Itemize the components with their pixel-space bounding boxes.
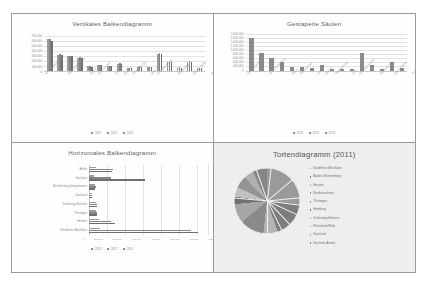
legend-item[interactable]: 2013 <box>325 131 335 135</box>
legend-label: Hamburg <box>313 208 326 211</box>
legend-label: 2011 <box>297 131 303 135</box>
y-tick-label: Schleswig-Holstein <box>14 203 87 206</box>
x-tick-label: 100.000 <box>89 238 107 241</box>
legend-item[interactable]: 2012 <box>107 131 117 135</box>
bar[interactable] <box>89 179 145 181</box>
y-tick-label: Saarland <box>14 194 87 197</box>
y-tick-label: Thüringen <box>14 212 87 215</box>
plot-area-vertical-bar: 700.000 600.000 500.000 400.000 300.000 … <box>12 14 213 142</box>
legend-item[interactable]: 2013 <box>123 131 133 135</box>
y-axis-labels-stacked-column: 1.800.000 1.600.000 1.400.000 1.200.000 … <box>218 33 244 73</box>
chart-panel-horizontal-bar[interactable]: Horizontales Balkendiagramm BerlinSachse… <box>12 143 214 272</box>
legend-label: Sachsen-Anhalt <box>313 242 335 245</box>
legend-swatch <box>107 132 109 134</box>
bar-row: Mecklenburg-Vorpommern <box>14 182 214 191</box>
legend-label: Niedersachsen <box>313 192 334 195</box>
x-tick-label: 300.000 <box>128 238 146 241</box>
legend-horizontal-bar[interactable]: 2013 2012 2011 <box>12 247 213 251</box>
pie-slice-separator <box>256 170 268 201</box>
legend-swatch <box>123 248 125 250</box>
legend-item[interactable]: 2013 <box>91 247 101 251</box>
legend-label: Thüringen <box>313 200 327 203</box>
legend-item[interactable]: Niedersachsen <box>310 192 342 195</box>
pie-chart[interactable] <box>234 168 300 234</box>
legend-label: 2012 <box>110 131 117 135</box>
x-axis-labels-stacked-column: Nordrhein-WestfalenBaden-WürttembergBaye… <box>247 74 408 108</box>
legend-label: Nordrhein-Westfalen <box>313 167 341 170</box>
y-tick-label: Sachsen <box>14 177 87 180</box>
legend-swatch <box>310 242 312 244</box>
plot-area-stacked-column: 1.800.000 1.600.000 1.400.000 1.200.000 … <box>214 14 416 142</box>
legend-item[interactable]: 2012 <box>107 247 117 251</box>
legend-item[interactable]: Baden-Württemberg <box>310 175 342 178</box>
legend-label: 2011 <box>127 247 133 251</box>
legend-swatch <box>325 132 327 134</box>
legend-swatch <box>293 132 295 134</box>
legend-pie[interactable]: Nordrhein-WestfalenBaden-WürttembergHess… <box>310 167 342 250</box>
y-tick-label: Nordrhein-Westfalen <box>14 229 87 232</box>
bar-stack <box>89 228 198 234</box>
legend-item[interactable]: Sachsen-Anhalt <box>310 242 342 245</box>
legend-swatch <box>310 168 312 170</box>
legend-label: Hessen <box>313 184 324 187</box>
bar-stack <box>89 184 96 190</box>
legend-swatch <box>310 217 312 219</box>
legend-item[interactable]: Thüringen <box>310 200 342 203</box>
bar[interactable] <box>89 206 97 208</box>
bar-group <box>327 34 337 71</box>
x-tick-label: 700.000 <box>204 238 213 241</box>
legend-item[interactable]: Schleswig-Holstein <box>310 217 342 220</box>
legend-swatch <box>309 132 311 134</box>
pie-slice-separator <box>234 197 267 201</box>
bar-row: Sachsen <box>14 174 214 183</box>
legend-swatch <box>310 192 312 194</box>
chart-panel-vertical-bar[interactable]: Vertikales Balkendiagramm 700.000 600.00… <box>12 14 214 143</box>
x-tick-label: 400.000 <box>147 238 165 241</box>
legend-swatch <box>91 248 93 250</box>
y-tick: 0 <box>18 71 42 76</box>
bar[interactable] <box>89 197 92 199</box>
legend-item[interactable]: Hessen <box>310 184 342 187</box>
chart-title-pie: Tortendiagramm (2011) <box>214 143 416 159</box>
y-tick-label: Mecklenburg-Vorpommern <box>14 185 87 188</box>
bar[interactable] <box>89 188 95 190</box>
legend-item[interactable]: 2011 <box>91 131 101 135</box>
legend-item[interactable]: Nordrhein-Westfalen <box>310 167 342 170</box>
legend-item[interactable]: Rheinland-Pfalz <box>310 225 342 228</box>
bar-row: Berlin <box>14 165 214 174</box>
legend-label: 2012 <box>312 131 319 135</box>
bar-stack <box>89 175 145 181</box>
bar-row: Saarland <box>14 191 214 200</box>
chart-panel-pie[interactable]: Tortendiagramm (2011) Nordrhein-Westfale… <box>214 143 416 272</box>
chart-grid: Vertikales Balkendiagramm 700.000 600.00… <box>11 13 416 273</box>
bar-stack <box>89 167 113 173</box>
bar[interactable] <box>89 223 115 225</box>
legend-label: 2012 <box>111 247 118 251</box>
bar[interactable] <box>89 232 198 234</box>
chart-panel-stacked-column[interactable]: Gestapelte Säulen 1.800.000 1.600.000 1.… <box>214 14 416 143</box>
bar-stack <box>89 210 97 216</box>
x-axis-labels-horizontal-bar: 0100.000200.000300.000400.000500.000600.… <box>82 238 214 241</box>
legend-item[interactable]: 2011 <box>293 131 303 135</box>
legend-label: Rheinland-Pfalz <box>313 225 335 228</box>
legend-swatch <box>310 176 312 178</box>
legend-label: 2013 <box>126 131 133 135</box>
legend-stacked-column[interactable]: 2011 2012 2013 <box>214 131 416 135</box>
legend-item[interactable]: 2011 <box>123 247 133 251</box>
bar-row: Schleswig-Holstein <box>14 200 214 209</box>
legend-swatch <box>310 226 312 228</box>
legend-item[interactable]: 2012 <box>309 131 319 135</box>
legend-swatch <box>310 209 312 211</box>
bar[interactable] <box>89 171 112 173</box>
legend-vertical-bar[interactable]: 2011 2012 2013 <box>12 131 213 135</box>
legend-item[interactable]: Saarland <box>310 233 342 236</box>
x-tick-label: 200.000 <box>108 238 126 241</box>
x-tick-label: 500.000 <box>166 238 184 241</box>
bar-group <box>317 34 327 71</box>
legend-swatch <box>123 132 125 134</box>
legend-item[interactable]: Hamburg <box>310 208 342 211</box>
legend-swatch <box>91 132 93 134</box>
bar[interactable] <box>89 214 97 216</box>
x-axis-labels-vertical-bar: Nordrhein-WestfalenBaden-WürttembergBaye… <box>45 74 205 108</box>
y-tick-label: Hessen <box>14 220 87 223</box>
